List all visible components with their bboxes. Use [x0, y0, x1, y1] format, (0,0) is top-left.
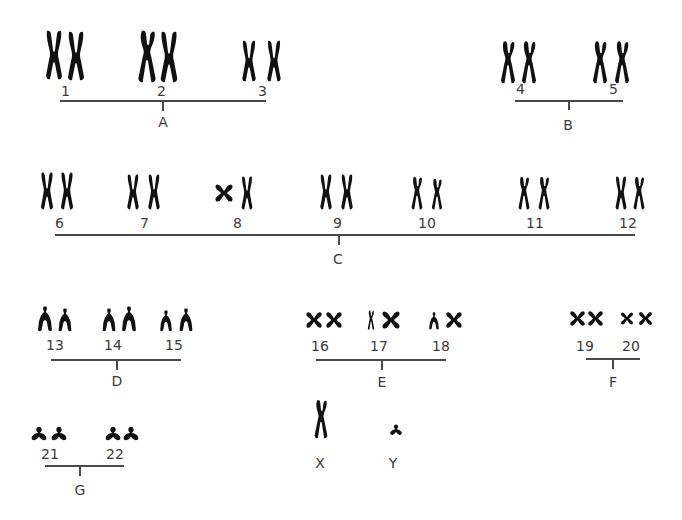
chromosome-number: 20 [622, 339, 640, 353]
chromosome-number: 1 [61, 84, 70, 98]
chromosome-13-pair [36, 306, 76, 332]
group-d-tick [116, 360, 118, 370]
chromosome-4-pair [498, 40, 542, 84]
group-b-tick [568, 101, 570, 110]
group-f-tick [612, 359, 614, 369]
chromosome-number: 16 [311, 339, 329, 353]
group-g-bracket [45, 465, 124, 467]
chromosome-16-pair [305, 310, 345, 330]
group-c-bracket [55, 234, 635, 236]
chromosome-14-pair [100, 306, 140, 332]
group-label-g: G [75, 483, 86, 497]
chromosome-22-pair [104, 426, 144, 444]
group-label-d: D [112, 374, 123, 388]
chromosome-number: 11 [526, 216, 544, 230]
sex-chromosome-label-x: X [315, 456, 325, 470]
chromosome-number: 12 [619, 216, 637, 230]
chromosome-x [311, 399, 333, 439]
chromosome-number: 22 [106, 447, 124, 461]
group-label-c: C [333, 252, 343, 266]
chromosome-number: 7 [140, 216, 149, 230]
group-c-tick [338, 235, 340, 245]
chromosome-y [389, 422, 403, 438]
chromosome-5-pair [590, 40, 634, 84]
chromosome-number: 3 [258, 84, 267, 98]
chromosome-1-pair [44, 28, 88, 82]
chromosome-20-pair [620, 310, 658, 328]
chromosome-number: 6 [55, 216, 64, 230]
chromosome-number: 18 [432, 339, 450, 353]
chromosome-9-pair [317, 174, 361, 210]
group-label-b: B [563, 118, 573, 132]
chromosome-number: 14 [104, 338, 122, 352]
chromosome-number: 19 [576, 339, 594, 353]
chromosome-number: 21 [41, 447, 59, 461]
chromosome-number: 9 [333, 216, 342, 230]
chromosome-3-pair [240, 40, 286, 82]
group-label-e: E [378, 375, 387, 389]
chromosome-number: 4 [516, 82, 525, 96]
group-a-tick [162, 101, 164, 111]
chromosome-2-pair [136, 29, 182, 83]
chromosome-21-pair [30, 426, 70, 444]
chromosome-12-pair [612, 176, 652, 210]
chromosome-number: 13 [46, 338, 64, 352]
chromosome-number: 15 [165, 338, 183, 352]
chromosome-15-pair [157, 308, 197, 332]
chromosome-18-pair [425, 310, 465, 330]
sex-chromosome-label-y: Y [389, 456, 398, 470]
group-e-tick [381, 360, 383, 370]
chromosome-7-pair [124, 174, 168, 210]
chromosome-11-pair [514, 176, 558, 210]
chromosome-number: 17 [370, 339, 388, 353]
chromosome-6-pair [36, 172, 80, 210]
chromosome-19-pair [569, 310, 607, 328]
chromosome-number: 5 [609, 82, 618, 96]
group-g-tick [79, 466, 81, 476]
chromosome-10-pair [408, 176, 448, 210]
chromosome-number: 2 [157, 84, 166, 98]
group-label-f: F [609, 375, 617, 389]
chromosome-number: 8 [233, 216, 242, 230]
chromosome-number: 10 [418, 216, 436, 230]
group-label-a: A [158, 115, 168, 129]
chromosome-17-pair [363, 310, 403, 330]
chromosome-8-pair [214, 176, 260, 210]
